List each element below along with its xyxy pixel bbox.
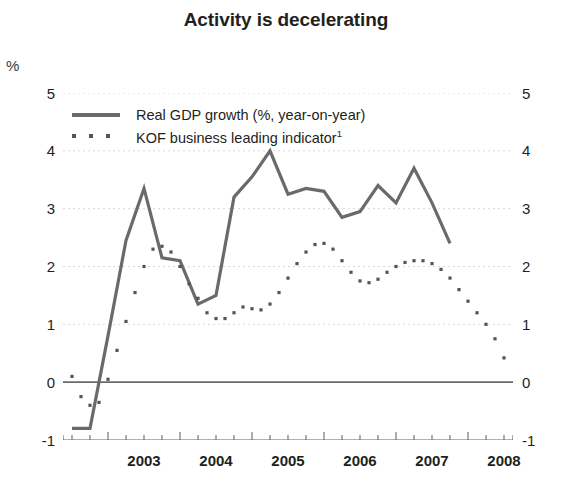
page-title: Activity is decelerating [0,9,572,31]
legend-swatch-dotted-line [72,134,120,139]
legend-label: KOF business leading indicator1 [136,128,342,146]
y-axis-tick-label-left: 3 [27,201,55,216]
y-axis-tick-label-left: 5 [27,86,55,101]
y-axis-tick-label-right: 2 [522,259,554,274]
y-axis-tick-label-left: -1 [27,433,55,448]
legend-footnote-marker: 1 [337,128,342,139]
x-axis-tick-label: 2005 [253,453,323,468]
x-axis-tick-label: 2003 [109,453,179,468]
y-axis-tick-label-right: 4 [522,143,554,158]
y-axis-tick-label-left: 0 [27,375,55,390]
y-axis-tick-label-right: 3 [522,201,554,216]
x-axis-tick-label: 2006 [325,453,395,468]
y-axis-tick-label-left: 2 [27,259,55,274]
legend-swatch-solid-line [72,113,120,117]
x-axis-tick-label: 2008 [469,453,539,468]
y-axis-tick-label-right: 0 [522,375,554,390]
y-axis-tick-label-left: 1 [27,317,55,332]
legend-label: Real GDP growth (%, year-on-year) [136,107,365,123]
x-axis-tick-label: 2007 [397,453,467,468]
series-line-gdp [72,151,450,429]
x-axis-tick-label: 2004 [181,453,251,468]
chart-container: Activity is decelerating % 554433221100-… [0,0,572,480]
y-axis-tick-label-right: 5 [522,86,554,101]
y-axis-tick-label-left: 4 [27,143,55,158]
y-axis-unit-label: % [6,57,19,74]
y-axis-tick-label-right: -1 [522,433,554,448]
y-axis-tick-label-right: 1 [522,317,554,332]
